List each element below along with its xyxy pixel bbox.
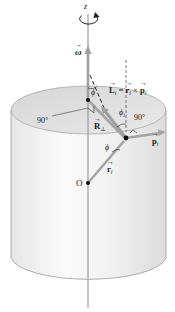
right-angle-label-left: 90°: [37, 117, 48, 125]
particle-dot: [124, 136, 129, 141]
R-symbol: R: [94, 122, 100, 131]
right-angle-label-right: 90°: [134, 114, 145, 122]
axis-center-dot: [86, 98, 90, 102]
R-perp-label: R⊥: [94, 122, 106, 132]
equals-sign: =: [118, 85, 123, 95]
z-axis-label: z: [84, 3, 87, 11]
r-subscript: i: [111, 169, 113, 175]
omega-arrowhead: [85, 45, 92, 54]
r-symbol-eq: r: [125, 86, 129, 95]
L-symbol: L: [109, 86, 115, 95]
origin-label: O: [76, 179, 83, 188]
phi-i-subscript: i: [123, 112, 125, 118]
rotating-cylinder-diagram: z ω ϕ Li = ri × pi ϕi 90° 90° R⊥ pi ϕ ri…: [0, 0, 175, 312]
rotation-arrow-icon: [80, 12, 100, 24]
L-equation-label: Li = ri × pi: [109, 86, 146, 96]
omega-symbol: ω: [75, 48, 82, 57]
R-subscript: ⊥: [100, 126, 106, 132]
r-label: ri: [107, 165, 112, 175]
phi-label-top: ϕ: [91, 89, 95, 97]
p-label: pi: [152, 137, 158, 147]
r-subscript-eq: i: [129, 90, 131, 96]
p-symbol-eq: p: [140, 86, 145, 95]
r-symbol: r: [107, 165, 111, 174]
origin-dot: [86, 181, 90, 185]
diagram-canvas: [0, 0, 175, 312]
cross-sign: ×: [133, 85, 138, 95]
p-symbol: p: [152, 137, 157, 146]
phi-label-bottom: ϕ: [105, 144, 109, 152]
phi-i-label: ϕi: [119, 109, 125, 118]
omega-label: ω: [75, 48, 82, 57]
